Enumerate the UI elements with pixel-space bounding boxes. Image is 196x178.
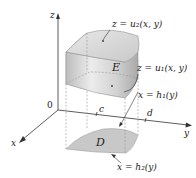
triple-integral-diagram: z x y 0 c d D E z = u₂(x, y) z = u₁(x, y… bbox=[0, 0, 196, 178]
left-boundary-label: x = h₁(y) bbox=[138, 90, 178, 100]
d-label: d bbox=[147, 108, 153, 118]
origin-label: 0 bbox=[47, 100, 53, 110]
region-d-label: D bbox=[95, 136, 105, 149]
z-axis-arrow bbox=[56, 13, 60, 19]
leader-dot bbox=[102, 40, 104, 42]
d-tick bbox=[145, 118, 146, 122]
top-surface-label: z = u₂(x, y) bbox=[111, 19, 163, 29]
y-axis bbox=[58, 110, 188, 125]
y-axis-arrow bbox=[186, 123, 193, 128]
right-boundary-label: x = h₂(y) bbox=[117, 162, 157, 172]
z-axis-label: z bbox=[49, 10, 55, 20]
solid-e-label: E bbox=[111, 61, 120, 74]
c-tick bbox=[96, 112, 97, 116]
leader-h2-arrow bbox=[111, 154, 116, 158]
leader-h1-arrow bbox=[119, 122, 123, 127]
leader-dot bbox=[111, 85, 113, 87]
bottom-surface-label: z = u₁(x, y) bbox=[136, 63, 188, 73]
x-axis-label: x bbox=[11, 138, 16, 148]
c-label: c bbox=[99, 104, 104, 114]
y-axis-label: y bbox=[183, 128, 190, 138]
x-axis bbox=[22, 110, 58, 140]
